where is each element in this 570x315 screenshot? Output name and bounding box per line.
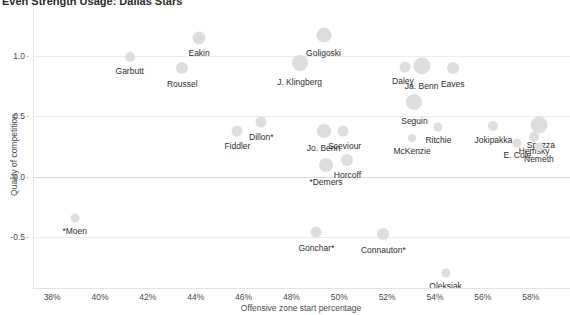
x-tick-label: 58% (522, 292, 539, 302)
data-point-label: Roussel (167, 80, 198, 89)
y-tick-label: 1.0 (13, 51, 25, 61)
y-tick-mark (26, 237, 29, 238)
x-tick-label: 56% (474, 292, 491, 302)
data-point-label: Ritchie (425, 136, 451, 145)
data-point-bubble[interactable] (377, 228, 389, 240)
data-point-bubble[interactable] (317, 124, 331, 138)
data-point-bubble[interactable] (292, 55, 308, 71)
data-point-label: Eaves (441, 80, 465, 89)
data-point-bubble[interactable] (441, 269, 450, 278)
data-point-bubble[interactable] (316, 28, 331, 43)
data-point-bubble[interactable] (447, 62, 459, 74)
data-point-bubble[interactable] (529, 132, 539, 142)
data-point-label: Ja. Benn (405, 82, 439, 91)
y-axis-label: Quality of competition (9, 95, 19, 215)
gridline-y-0.0 (34, 177, 570, 178)
data-point-bubble[interactable] (341, 154, 353, 166)
plot-area: EakinGarbuttGoligoskiJ. KlingbergRoussel… (33, 10, 570, 289)
y-tick-mark (26, 56, 29, 57)
data-point-label: Oleksiak (429, 282, 462, 289)
data-point-bubble[interactable] (530, 116, 547, 133)
data-point-label: Gonchar* (298, 244, 334, 253)
data-point-bubble[interactable] (513, 138, 522, 147)
data-point-bubble[interactable] (311, 227, 322, 238)
data-point-bubble[interactable] (337, 125, 348, 136)
data-point-bubble[interactable] (408, 134, 416, 142)
data-point-label: Goligoski (306, 49, 341, 58)
x-tick-label: 54% (426, 292, 443, 302)
data-point-bubble[interactable] (406, 94, 422, 110)
data-point-bubble[interactable] (125, 52, 135, 62)
data-point-bubble[interactable] (434, 123, 443, 132)
x-tick-label: 42% (139, 292, 156, 302)
data-point-label: Sceviour (328, 142, 361, 151)
data-point-label: Fiddler (224, 142, 250, 151)
gridline-y--0.5 (34, 237, 570, 238)
x-tick-label: 40% (91, 292, 108, 302)
data-point-label: Dillon* (249, 133, 274, 142)
y-tick-label: -0.5 (10, 232, 25, 242)
data-point-label: Garbutt (116, 67, 144, 76)
y-tick-mark (26, 177, 29, 178)
scatter-chart: Even Strength Usage: Dallas Stars 1.00.5… (0, 0, 570, 315)
data-point-label: *Demers (309, 178, 342, 187)
x-tick-label: 44% (187, 292, 204, 302)
data-point-label: Nemeth (524, 155, 554, 164)
data-point-bubble[interactable] (70, 213, 79, 222)
data-point-bubble[interactable] (488, 121, 498, 131)
data-point-bubble[interactable] (176, 62, 188, 74)
x-tick-label: 48% (283, 292, 300, 302)
data-point-label: Connauton* (361, 246, 406, 255)
chart-title: Even Strength Usage: Dallas Stars (2, 0, 182, 7)
data-point-bubble[interactable] (399, 61, 410, 72)
data-point-bubble[interactable] (256, 117, 267, 128)
data-point-label: Jokipakka (475, 136, 513, 145)
gridline-y-0.5 (34, 116, 570, 117)
data-point-bubble[interactable] (534, 142, 543, 151)
data-point-label: Seguin (401, 117, 427, 126)
data-point-label: Eakin (188, 49, 209, 58)
data-point-label: McKenzie (393, 147, 430, 156)
data-point-label: *Moen (62, 227, 87, 236)
data-point-bubble[interactable] (232, 125, 243, 136)
y-tick-mark (26, 116, 29, 117)
x-tick-label: 46% (235, 292, 252, 302)
data-point-bubble[interactable] (193, 31, 206, 44)
x-tick-label: 52% (379, 292, 396, 302)
data-point-label: J. Klingberg (277, 78, 322, 87)
data-point-bubble[interactable] (319, 158, 333, 172)
data-point-bubble[interactable] (413, 57, 430, 74)
x-tick-label: 50% (331, 292, 348, 302)
x-axis-label: Offensive zone start percentage (33, 303, 569, 313)
x-tick-label: 38% (44, 292, 61, 302)
